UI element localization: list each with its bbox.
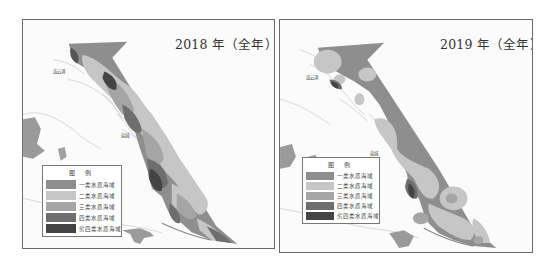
legend-swatch-class-1 — [306, 172, 334, 180]
legend-item: 一类水质海域 — [306, 171, 376, 181]
place-label: 连云港 — [306, 74, 318, 80]
map-panel-2018: 2018 年（全年） 连云港 盐城 图 例 一类水质海域 二类水质海域 三类水质… — [22, 19, 275, 249]
legend-item: 二类水质海域 — [306, 181, 376, 191]
legend-swatch-class-4 — [306, 202, 334, 210]
legend-label: 劣四类水质海域 — [337, 212, 379, 220]
legend-item: 三类水质海域 — [46, 201, 118, 212]
legend-label: 二类水质海域 — [79, 192, 115, 200]
legend-label: 二类水质海域 — [337, 182, 373, 190]
legend-swatch-class-3 — [46, 202, 76, 211]
legend-item: 四类水质海域 — [46, 212, 118, 223]
map-title: 2019 年（全年） — [440, 34, 533, 53]
legend-item: 三类水质海域 — [306, 191, 376, 201]
legend-label: 一类水质海域 — [337, 172, 373, 180]
legend-item: 四类水质海域 — [306, 201, 376, 211]
map-panel-2019: 2019 年（全年） 连云港 盐城 图 例 一类水质海域 二类水质海域 三类水质… — [279, 19, 533, 253]
legend: 图 例 一类水质海域 二类水质海域 三类水质海域 四类水质海域 劣四类水质海域 — [42, 165, 122, 237]
legend-item: 一类水质海域 — [46, 179, 118, 190]
legend-swatch-class-1 — [46, 180, 76, 189]
place-label: 连云港 — [53, 68, 65, 74]
place-label: 盐城 — [121, 132, 129, 138]
legend-swatch-class-4-plus — [306, 212, 334, 220]
legend-title: 图 例 — [306, 160, 376, 169]
map-title: 2018 年（全年） — [175, 34, 275, 53]
legend-swatch-class-2 — [46, 191, 76, 200]
legend-label: 一类水质海域 — [79, 181, 115, 189]
legend-label: 三类水质海域 — [79, 203, 115, 211]
legend-item: 二类水质海域 — [46, 190, 118, 201]
legend-label: 四类水质海域 — [337, 202, 373, 210]
legend-label: 三类水质海域 — [337, 192, 373, 200]
legend-swatch-class-2 — [306, 182, 334, 190]
place-label: 盐城 — [370, 150, 378, 156]
legend-item: 劣四类水质海域 — [306, 211, 376, 221]
legend-swatch-class-4-plus — [46, 224, 76, 233]
legend-swatch-class-4 — [46, 213, 76, 222]
legend-swatch-class-3 — [306, 192, 334, 200]
legend: 图 例 一类水质海域 二类水质海域 三类水质海域 四类水质海域 劣四类水质海域 — [302, 157, 380, 224]
legend-label: 四类水质海域 — [79, 214, 115, 222]
legend-item: 劣四类水质海域 — [46, 223, 118, 234]
legend-label: 劣四类水质海域 — [79, 225, 121, 233]
legend-title: 图 例 — [46, 168, 118, 177]
